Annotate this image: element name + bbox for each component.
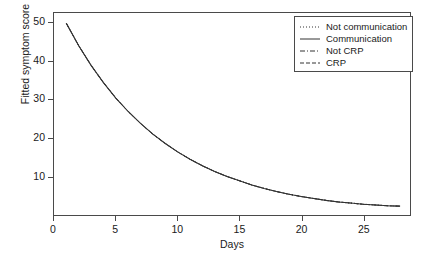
y-tick-label: 10 xyxy=(33,170,45,183)
legend-line-icon xyxy=(299,45,321,56)
x-tick-label: 25 xyxy=(350,223,378,236)
x-tick-mark xyxy=(239,216,240,221)
y-tick: 40 xyxy=(0,61,53,62)
legend-box: Not communicationCommunicationNot CRPCRP xyxy=(294,16,413,72)
x-tick-label: 15 xyxy=(225,223,253,236)
legend-line-icon xyxy=(299,57,321,68)
chart-figure: Fitted symptom score 1020304050 05101520… xyxy=(0,0,426,263)
legend-item: CRP xyxy=(299,56,407,68)
y-tick-label: 50 xyxy=(33,15,45,28)
x-tick-label: 0 xyxy=(39,223,67,236)
legend-label: Not CRP xyxy=(326,45,363,56)
y-tick: 20 xyxy=(0,138,53,139)
y-tick-label: 40 xyxy=(33,54,45,67)
x-axis-title: Days xyxy=(53,238,411,250)
x-tick-mark xyxy=(53,216,54,221)
x-tick-mark xyxy=(364,216,365,221)
x-tick-label: 5 xyxy=(101,223,129,236)
y-tick-label: 20 xyxy=(33,131,45,144)
x-tick-label: 20 xyxy=(288,223,316,236)
x-tick: 5 xyxy=(115,216,116,236)
x-tick: 20 xyxy=(302,216,303,236)
legend-label: Not communication xyxy=(326,21,407,32)
y-tick-label: 30 xyxy=(33,92,45,105)
x-tick-mark xyxy=(115,216,116,221)
legend-label: Communication xyxy=(326,33,392,44)
legend-item: Not CRP xyxy=(299,44,407,56)
x-tick-mark xyxy=(302,216,303,221)
y-axis-title: Fitted symptom score xyxy=(19,0,31,134)
y-tick: 10 xyxy=(0,177,53,178)
x-tick-label: 10 xyxy=(163,223,191,236)
x-tick: 15 xyxy=(239,216,240,236)
y-tick: 30 xyxy=(0,99,53,100)
legend-line-icon xyxy=(299,21,321,32)
legend-item: Not communication xyxy=(299,20,407,32)
legend-label: CRP xyxy=(326,57,346,68)
legend-line-icon xyxy=(299,33,321,44)
y-tick: 50 xyxy=(0,22,53,23)
x-tick: 25 xyxy=(364,216,365,236)
x-tick: 10 xyxy=(177,216,178,236)
x-tick: 0 xyxy=(53,216,54,236)
legend-item: Communication xyxy=(299,32,407,44)
x-tick-mark xyxy=(177,216,178,221)
